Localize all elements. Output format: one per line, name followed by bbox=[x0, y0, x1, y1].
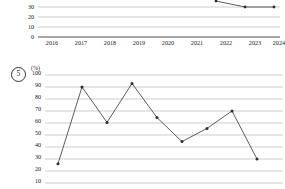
bottom-data-point-9 bbox=[256, 158, 259, 161]
bottom-y-tick-10: 10 bbox=[35, 178, 41, 184]
bottom-y-tick-90: 90 bbox=[35, 82, 41, 88]
top-data-point-2022 bbox=[215, 0, 218, 2]
top-chart-svg bbox=[38, 0, 280, 39]
bottom-series-line bbox=[58, 83, 257, 163]
bottom-data-point-5 bbox=[156, 116, 159, 119]
bottom-chart-plot-area bbox=[45, 73, 283, 189]
bottom-y-tick-30: 30 bbox=[35, 154, 41, 160]
top-x-tick-2018: 2018 bbox=[104, 40, 116, 46]
top-chart-x-axis-labels: 2016 2017 2018 2019 2020 2021 2022 2023 … bbox=[30, 40, 285, 52]
bottom-y-tick-50: 50 bbox=[35, 130, 41, 136]
top-x-tick-2019: 2019 bbox=[133, 40, 145, 46]
bottom-data-point-6 bbox=[181, 140, 184, 143]
bottom-y-tick-20: 20 bbox=[35, 166, 41, 172]
top-chart-plot-area bbox=[38, 0, 280, 39]
bottom-y-tick-60: 60 bbox=[35, 118, 41, 124]
bottom-data-point-1 bbox=[57, 162, 60, 165]
bottom-data-point-7 bbox=[206, 127, 209, 130]
top-x-tick-2022: 2022 bbox=[220, 40, 232, 46]
top-data-point-2024 bbox=[273, 6, 276, 9]
top-x-tick-2017: 2017 bbox=[75, 40, 87, 46]
top-x-tick-2024: 2024(年) bbox=[273, 40, 285, 46]
bottom-line-chart: 5 (%) 100 90 80 70 60 50 40 30 20 10 bbox=[0, 62, 285, 189]
top-line-chart: 30 20 10 0 2016 2017 2018 2019 2020 2021… bbox=[0, 0, 285, 52]
bottom-data-point-8 bbox=[231, 110, 234, 113]
top-x-tick-2016: 2016 bbox=[46, 40, 58, 46]
bottom-y-tick-100: 100 bbox=[32, 70, 41, 76]
bottom-data-point-2 bbox=[81, 86, 84, 89]
bottom-y-tick-40: 40 bbox=[35, 142, 41, 148]
top-y-tick-20: 20 bbox=[28, 14, 34, 20]
top-x-tick-2023: 2023 bbox=[249, 40, 261, 46]
bottom-y-tick-70: 70 bbox=[35, 106, 41, 112]
bottom-data-point-4 bbox=[131, 82, 134, 85]
top-data-point-2023 bbox=[244, 6, 247, 9]
top-y-tick-10: 10 bbox=[28, 24, 34, 30]
bottom-y-tick-80: 80 bbox=[35, 94, 41, 100]
top-chart-y-axis-labels: 30 20 10 0 bbox=[0, 0, 36, 42]
top-x-tick-2021: 2021 bbox=[191, 40, 203, 46]
bottom-data-point-3 bbox=[106, 121, 109, 124]
top-y-tick-30: 30 bbox=[28, 4, 34, 10]
bottom-chart-svg bbox=[45, 73, 283, 189]
bottom-chart-y-axis-labels: 100 90 80 70 60 50 40 30 20 10 bbox=[0, 70, 43, 186]
top-x-tick-2020: 2020 bbox=[162, 40, 174, 46]
